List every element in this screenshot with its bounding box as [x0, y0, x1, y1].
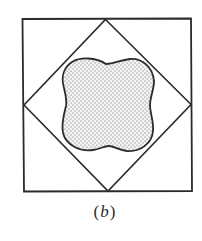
figure-caption: (b): [0, 202, 202, 222]
stippled-lobed-region: [62, 58, 154, 151]
caption-close-paren: ): [110, 202, 117, 221]
caption-letter: b: [100, 202, 110, 221]
